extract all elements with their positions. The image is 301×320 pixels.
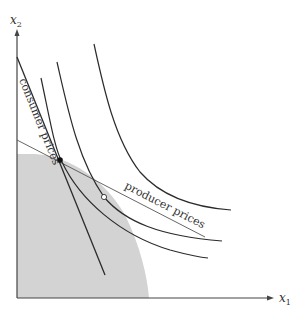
production-possibility-set <box>17 154 149 298</box>
producer-point <box>101 194 106 199</box>
indifference-curve-3 <box>94 44 231 210</box>
price-diagram: x2 x1 consumer prices producer prices <box>0 0 301 320</box>
y-axis-label: x2 <box>10 13 22 29</box>
x-axis-label: x1 <box>279 291 291 307</box>
y-axis-arrow-icon <box>15 29 20 36</box>
producer-prices-label: producer prices <box>123 179 208 231</box>
x-axis-arrow-icon <box>267 296 274 301</box>
consumer-prices-label: consumer prices <box>16 76 63 167</box>
